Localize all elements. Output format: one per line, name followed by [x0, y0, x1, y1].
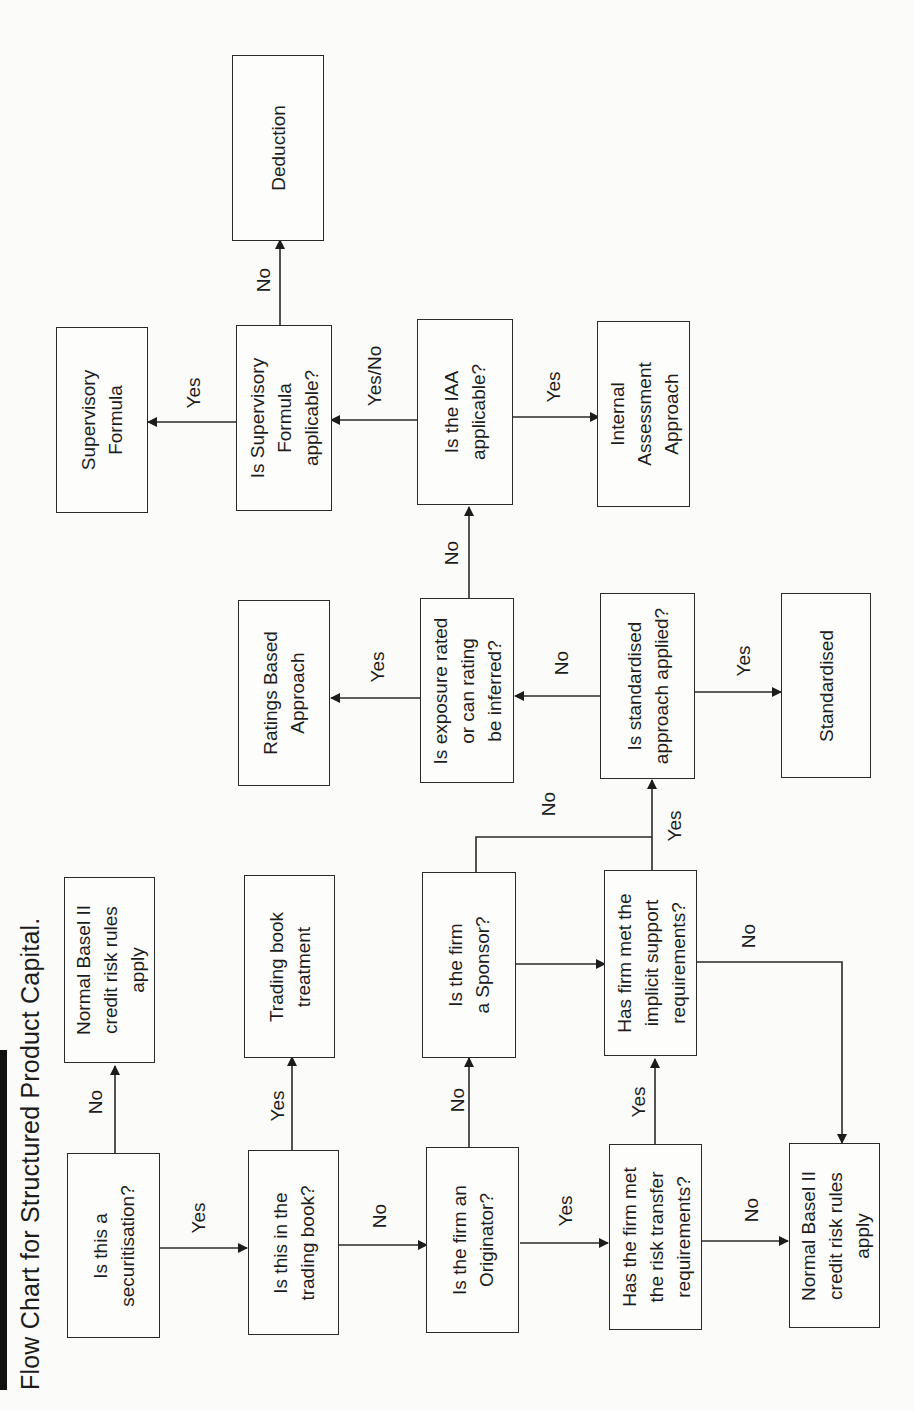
node-deduction: Deduction — [232, 55, 324, 241]
node-label: Is the IAA applicable? — [438, 364, 492, 460]
node-internal-assessment-approach: Internal Assessment Approach — [597, 321, 690, 507]
edge-label-risk-transfer-yes: Yes — [628, 1087, 650, 1118]
node-label: Is the firm an Originator? — [446, 1185, 500, 1295]
edge-label-implicit-support-no: No — [738, 924, 760, 948]
node-normal-basel-top: Normal Basel II credit risk rules apply — [64, 877, 155, 1063]
node-label: Internal Assessment Approach — [603, 362, 684, 465]
node-label: Is standardised approach applied? — [621, 608, 675, 764]
edge-label-originator-yes: Yes — [555, 1196, 577, 1227]
edge-label-sponsor-no: No — [538, 792, 560, 816]
node-supervisory-formula: Supervisory Formula — [56, 327, 148, 513]
node-label: Is this a securitisation? — [87, 1185, 141, 1306]
node-supervisory-formula-question: Is Supervisory Formula applicable? — [236, 325, 332, 511]
node-trading-book-question: Is this in the trading book? — [248, 1150, 339, 1335]
node-label: Is the firm a Sponsor? — [442, 916, 496, 1013]
node-label: Trading book treatment — [263, 911, 317, 1021]
node-label: Standardised — [813, 630, 840, 742]
edge-label-trading-book-no: No — [369, 1204, 391, 1228]
node-is-securitisation: Is this a securitisation? — [67, 1153, 160, 1338]
node-ratings-based-approach: Ratings Based Approach — [238, 600, 330, 786]
node-label: Has the firm met the risk transfer requi… — [615, 1167, 696, 1306]
node-sponsor-question: Is the firm a Sponsor? — [422, 872, 516, 1058]
node-label: Supervisory Formula — [75, 370, 129, 470]
node-label: Has firm met the implicit support requir… — [610, 893, 691, 1032]
edge-label-risk-transfer-no: No — [741, 1198, 763, 1222]
node-label: Normal Basel II credit risk rules apply — [69, 905, 150, 1035]
edge-label-iaa-yes: Yes — [543, 372, 565, 403]
edge-label-standardised-no: No — [551, 651, 573, 675]
edge-label-originator-no: No — [447, 1088, 469, 1112]
edge-label-implicit-support-yes: Yes — [664, 811, 686, 842]
node-normal-basel-bottom: Normal Basel II credit risk rules apply — [789, 1143, 880, 1328]
edge-label-securitisation-no: No — [85, 1090, 107, 1114]
node-implicit-support-question: Has firm met the implicit support requir… — [604, 870, 697, 1056]
edge-label-supervisory-no: No — [253, 268, 275, 292]
edge-label-exposure-no: No — [441, 541, 463, 565]
node-exposure-rated-question: Is exposure rated or can rating be infer… — [420, 598, 514, 783]
node-originator-question: Is the firm an Originator? — [426, 1147, 519, 1333]
node-label: Normal Basel II credit risk rules apply — [794, 1171, 875, 1301]
node-label: Is Supervisory Formula applicable? — [244, 358, 325, 478]
node-label: Deduction — [265, 105, 292, 191]
node-standardised: Standardised — [781, 593, 871, 778]
edge-label-securitisation-yes: Yes — [188, 1203, 210, 1234]
node-label: Ratings Based Approach — [257, 631, 311, 755]
edge-label-trading-book-yes: Yes — [267, 1091, 289, 1122]
node-risk-transfer-question: Has the firm met the risk transfer requi… — [609, 1144, 702, 1330]
edge-label-iaa-yes-no: Yes/No — [364, 346, 386, 407]
node-iaa-question: Is the IAA applicable? — [417, 319, 513, 505]
node-standardised-question: Is standardised approach applied? — [600, 593, 695, 779]
node-label: Is this in the trading book? — [267, 1185, 321, 1300]
edge-label-supervisory-yes: Yes — [183, 378, 205, 409]
node-trading-book-treatment: Trading book treatment — [244, 875, 335, 1058]
edge-label-exposure-yes: Yes — [367, 652, 389, 683]
edge-label-standardised-yes: Yes — [733, 646, 755, 677]
node-label: Is exposure rated or can rating be infer… — [427, 617, 508, 764]
